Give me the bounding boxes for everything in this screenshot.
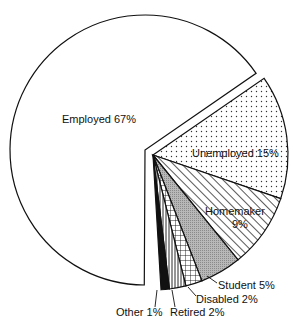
label-unemployed: Unemployed 15%: [192, 147, 279, 159]
leader-line: [155, 290, 157, 307]
leader-line: [188, 287, 196, 296]
label-employed: Employed 67%: [62, 113, 136, 125]
label-student: Student 5%: [218, 279, 275, 291]
pie-chart: Employed 67%Unemployed 15%Homemaker9%Stu…: [0, 0, 293, 321]
label-homemaker: Homemaker: [205, 205, 265, 217]
label-disabled: Disabled 2%: [196, 293, 258, 305]
label-other: Other 1%: [116, 306, 163, 318]
label-homemaker-value: 9%: [232, 218, 248, 230]
leader-line: [172, 290, 175, 307]
label-retired: Retired 2%: [170, 306, 225, 318]
